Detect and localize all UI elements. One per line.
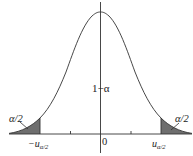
right-tail-label: α/2: [175, 113, 189, 124]
right-critical-subscript: α/2: [157, 143, 166, 150]
center-area-label: 1−α: [92, 82, 110, 94]
origin-label: 0: [102, 136, 107, 147]
normal-distribution-diagram: 1−α α/2 α/2 0 −uα/2 uα/2: [0, 0, 193, 156]
left-tail-label: α/2: [9, 113, 23, 124]
left-critical-subscript: α/2: [40, 143, 49, 150]
left-critical-symbol: −u: [28, 138, 40, 149]
right-critical-value-label: uα/2: [152, 138, 166, 150]
left-critical-value-label: −uα/2: [28, 138, 49, 150]
